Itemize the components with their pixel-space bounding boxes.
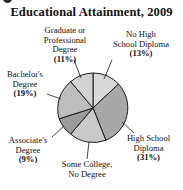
label-percent: (31%): [114, 153, 183, 163]
label-percent: (13%): [99, 49, 183, 59]
label-some-college-no-degree: Some College, No Degree: [47, 160, 127, 179]
pie-slices: [58, 73, 128, 143]
label-line: No Degree: [47, 170, 127, 180]
label-bachelors-degree: Bachelor's Degree (19%): [0, 70, 52, 99]
chart-figure: Educational Attainment, 2009: [0, 0, 183, 190]
label-no-high-school-diploma: No High School Diploma (13%): [99, 30, 183, 59]
label-high-school-diploma: High School Diploma (31%): [114, 134, 183, 163]
label-percent: (11%): [22, 55, 108, 65]
label-graduate-professional-degree: Graduate or Professional Degree (11%): [22, 26, 108, 64]
leader-line-some-college: [87, 142, 89, 159]
label-percent: (19%): [0, 89, 52, 99]
leader-line-high-school-diploma: [122, 122, 134, 133]
